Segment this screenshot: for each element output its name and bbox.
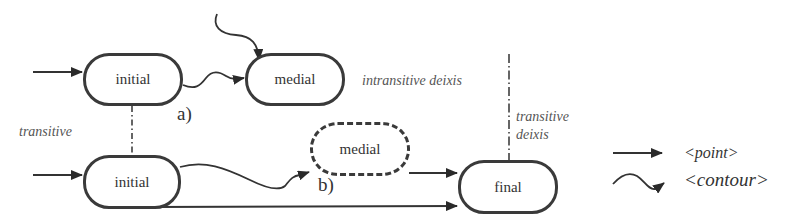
- legend-point-label: <point>: [684, 144, 738, 162]
- diagram-canvas: initial medial initial medial final a) b…: [0, 0, 806, 222]
- node-label: initial: [115, 174, 150, 191]
- node-label: medial: [275, 71, 316, 88]
- label-transitive-deixis-line1: transitive: [516, 109, 569, 125]
- contour-arrow-into-medial-top: [216, 14, 259, 60]
- legend-contour-arrow-icon: [613, 174, 664, 189]
- point-arrow-initial-to-final: [152, 206, 457, 207]
- label-transitive-deixis-line2: deixis: [516, 127, 549, 143]
- node-final: final: [458, 160, 558, 214]
- legend-contour-label: <contour>: [684, 169, 769, 191]
- node-medial-dashed: medial: [310, 122, 410, 176]
- node-medial-top: medial: [245, 53, 345, 106]
- contour-arrow-initial-to-medial: [183, 73, 244, 88]
- label-transitive: transitive: [19, 124, 72, 140]
- label-a: a): [177, 103, 192, 125]
- node-label: final: [494, 179, 522, 196]
- label-intransitive-deixis: intransitive deixis: [362, 73, 462, 89]
- node-label: medial: [340, 141, 381, 158]
- node-label: initial: [116, 71, 151, 88]
- node-initial-bottom: initial: [83, 155, 181, 209]
- node-initial-top: initial: [83, 53, 183, 106]
- contour-arrow-initial-to-medial-dashed: [180, 164, 309, 188]
- label-b: b): [318, 174, 334, 196]
